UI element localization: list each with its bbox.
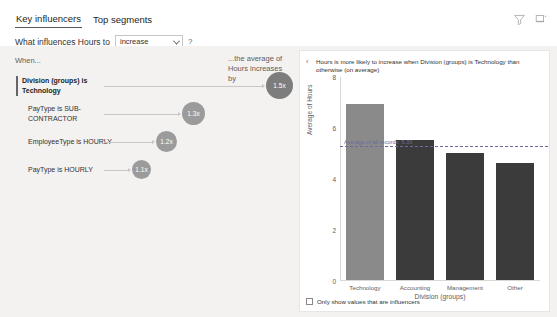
bar-column[interactable] <box>445 77 485 280</box>
visual-toolbar <box>513 12 548 25</box>
influencer-label: PayType is HOURLY <box>28 165 114 175</box>
influencer-bubble[interactable]: 1.5x <box>266 72 293 99</box>
y-tick: 6 <box>332 125 336 132</box>
bar-series <box>340 77 540 280</box>
influencer-label: EmployeeType is HOURLY <box>28 137 114 147</box>
bar-other[interactable] <box>496 163 534 280</box>
connector-line <box>104 170 130 171</box>
bar-technology[interactable] <box>346 104 384 280</box>
y-tick: 0 <box>332 278 336 285</box>
connector-arrow <box>262 84 265 88</box>
connector-line <box>104 142 154 143</box>
help-icon[interactable]: ? <box>188 37 192 46</box>
checkbox-label: Only show values that are influencers <box>317 298 420 305</box>
average-reference-label: Average of all records: 5.30 <box>344 139 412 145</box>
x-axis-line <box>340 280 540 281</box>
bar-management[interactable] <box>446 153 484 281</box>
average-reference-line <box>340 146 548 147</box>
connector-line <box>104 114 180 115</box>
back-chevron-icon[interactable]: ‹ <box>306 58 308 65</box>
connector-arrow <box>178 112 181 116</box>
focus-mode-icon[interactable] <box>535 12 548 25</box>
question-label: What influences Hours to <box>15 37 110 47</box>
checkbox-icon[interactable] <box>306 298 313 305</box>
influencer-row-paytype-hourly[interactable]: PayType is HOURLY 1.1x <box>0 156 293 184</box>
connector-arrow <box>128 168 131 172</box>
tab-key-influencers[interactable]: Key influencers <box>15 13 82 28</box>
x-tick: Management <box>441 284 489 291</box>
visual-header: Key influencers Top segments What influe… <box>0 0 557 46</box>
y-tick: 8 <box>332 74 336 81</box>
x-tick: Technology <box>341 284 389 291</box>
only-influencers-checkbox[interactable]: Only show values that are influencers <box>306 298 420 305</box>
bar-column[interactable] <box>395 77 435 280</box>
chart-title: Hours is more likely to increase when Di… <box>316 58 544 74</box>
influencer-bubble[interactable]: 1.1x <box>132 160 151 179</box>
x-tick: Accounting <box>391 284 439 291</box>
influencer-row-employeetype-hourly[interactable]: EmployeeType is HOURLY 1.2x <box>0 128 293 156</box>
influencer-detail-panel: ‹ Hours is more likely to increase when … <box>299 50 550 312</box>
dropdown-value: increase <box>120 37 148 46</box>
selection-indicator <box>16 76 18 96</box>
bar-column[interactable] <box>345 77 385 280</box>
y-tick: 4 <box>332 176 336 183</box>
influencer-list-panel: When... ...the average of Hours increase… <box>0 46 293 317</box>
influencer-rows: Division (groups) is Technology 1.5x Pay… <box>0 72 293 184</box>
connector-arrow <box>152 140 155 144</box>
tab-top-segments[interactable]: Top segments <box>92 14 153 28</box>
influencer-label: Division (groups) is Technology <box>22 76 108 96</box>
filter-icon[interactable] <box>513 12 526 25</box>
influencer-row-division-technology[interactable]: Division (groups) is Technology 1.5x <box>0 72 293 100</box>
column-header-when: When... <box>15 56 41 66</box>
influencer-label: PayType is SUB-CONTRACTOR <box>28 104 114 124</box>
connector-line <box>104 86 264 87</box>
key-influencers-visual: Key influencers Top segments What influe… <box>0 0 557 317</box>
influencer-row-paytype-subcontractor[interactable]: PayType is SUB-CONTRACTOR 1.3x <box>0 100 293 128</box>
x-axis-ticks: Technology Accounting Management Other <box>340 284 540 291</box>
bar-accounting[interactable] <box>396 140 434 280</box>
bar-chart-plot: Average of Hours 0 2 4 6 8 <box>340 77 540 281</box>
visual-body: When... ...the average of Hours increase… <box>0 46 557 317</box>
tab-bar: Key influencers Top segments <box>15 13 153 28</box>
y-axis-label: Average of Hours <box>306 85 313 135</box>
influencer-bubble[interactable]: 1.2x <box>156 131 177 152</box>
bar-column[interactable] <box>495 77 535 280</box>
y-tick: 2 <box>332 227 336 234</box>
x-tick: Other <box>491 284 539 291</box>
influencer-bubble[interactable]: 1.3x <box>182 102 205 125</box>
chevron-down-icon <box>173 38 180 45</box>
